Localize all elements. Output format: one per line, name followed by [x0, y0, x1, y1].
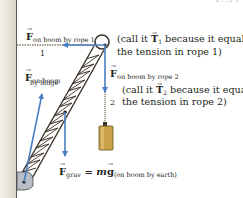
- force-subscript-line2: by hinge: [30, 80, 243, 87]
- label-force-rope-1: Fon boom by rope 1: [26, 27, 95, 43]
- t1-subscript: 1: [158, 38, 162, 45]
- t1-note-line2: the tension in rope 1): [117, 46, 243, 58]
- rope-2-number: 2: [110, 99, 115, 107]
- t1-note-prefix: (call it: [117, 33, 151, 44]
- g-subscript: (on boom by earth): [114, 171, 177, 179]
- t1-note: (call it T1 because it equals the tensio…: [117, 33, 243, 58]
- equals-m: = m: [81, 166, 107, 177]
- g-symbol: g: [107, 167, 114, 177]
- force-subscript: on boom by rope 1: [33, 36, 95, 44]
- hanging-weight: [99, 126, 113, 150]
- pulley: [95, 35, 109, 49]
- rope-2: [103, 92, 107, 126]
- t2-note-line2: the tension in rope 2): [122, 96, 227, 108]
- grav-subscript: grav: [66, 171, 81, 179]
- label-force-rope-2: Fon boom by rope 2: [110, 64, 179, 80]
- label-force-gravity: Fgrav = mg(on boom by earth): [59, 162, 177, 178]
- t2-subscript: 2: [163, 89, 167, 96]
- header-fragment: 27.3 F: [215, 0, 241, 4]
- t1-note-suffix: because it equals: [162, 33, 243, 44]
- rope-1-number: 1: [40, 50, 45, 58]
